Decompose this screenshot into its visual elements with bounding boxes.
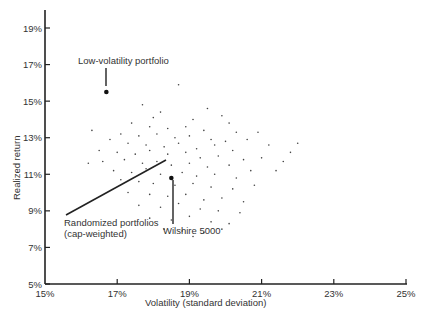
portfolio-point bbox=[217, 155, 219, 157]
portfolio-point bbox=[185, 126, 187, 128]
portfolio-point bbox=[149, 194, 151, 196]
portfolio-point bbox=[196, 148, 198, 150]
randomized-sublabel: (cap-weighted) bbox=[64, 228, 127, 239]
y-tick-label: 17% bbox=[23, 59, 43, 70]
portfolio-point bbox=[109, 139, 111, 141]
randomized-label: Randomized portfolios bbox=[64, 217, 159, 228]
portfolio-point bbox=[171, 219, 173, 221]
portfolio-point bbox=[167, 128, 169, 130]
portfolio-point bbox=[185, 194, 187, 196]
portfolio-point bbox=[98, 150, 100, 152]
portfolio-point bbox=[145, 168, 147, 170]
y-tick-label: 19% bbox=[23, 23, 43, 34]
portfolio-point bbox=[297, 142, 299, 144]
y-tick-label: 13% bbox=[23, 132, 43, 143]
portfolio-point bbox=[120, 179, 122, 181]
x-tick-label: 17% bbox=[108, 288, 128, 299]
y-tick-label: 7% bbox=[28, 242, 42, 253]
portfolio-point bbox=[228, 164, 230, 166]
portfolio-point bbox=[199, 208, 201, 210]
portfolio-point bbox=[185, 152, 187, 154]
portfolio-point bbox=[138, 205, 140, 207]
portfolio-point bbox=[181, 172, 183, 174]
portfolio-point bbox=[178, 203, 180, 205]
portfolio-point bbox=[145, 144, 147, 146]
portfolio-point bbox=[221, 197, 223, 199]
y-tick-label: 11% bbox=[24, 169, 43, 180]
portfolio-point bbox=[127, 192, 129, 194]
portfolio-point bbox=[210, 186, 212, 188]
portfolio-point bbox=[214, 144, 216, 146]
portfolio-point bbox=[210, 221, 212, 223]
portfolio-point bbox=[243, 201, 245, 203]
portfolio-point bbox=[160, 111, 162, 113]
portfolio-point bbox=[236, 131, 238, 133]
portfolio-point bbox=[134, 153, 136, 155]
axes: 5%7%9%11%13%15%17%19% 15%17%19%21%23%25% bbox=[23, 10, 416, 299]
portfolio-point bbox=[160, 173, 162, 175]
portfolio-point bbox=[199, 157, 201, 159]
portfolio-point bbox=[124, 159, 126, 161]
portfolio-point bbox=[149, 150, 151, 152]
portfolio-point bbox=[282, 161, 284, 163]
portfolio-point bbox=[149, 126, 151, 128]
portfolio-point bbox=[207, 108, 209, 110]
highlight-point bbox=[104, 90, 109, 95]
portfolio-point bbox=[232, 150, 234, 152]
scatter-points bbox=[88, 84, 299, 237]
x-ticks: 15%17%19%21%23%25% bbox=[35, 279, 416, 299]
annotations: Low-volatility portfolio Randomized port… bbox=[64, 55, 221, 239]
portfolio-point bbox=[203, 130, 205, 132]
y-ticks: 5%7%9%11%13%15%17%19% bbox=[23, 23, 50, 290]
portfolio-point bbox=[254, 184, 256, 186]
portfolio-point bbox=[178, 84, 180, 86]
portfolio-point bbox=[196, 175, 198, 177]
portfolio-point bbox=[153, 183, 155, 185]
portfolio-point bbox=[178, 142, 180, 144]
portfolio-point bbox=[120, 133, 122, 135]
portfolio-point bbox=[243, 159, 245, 161]
portfolio-point bbox=[228, 122, 230, 124]
portfolio-point bbox=[192, 119, 194, 121]
portfolio-point bbox=[221, 228, 223, 230]
portfolio-point bbox=[189, 216, 191, 218]
portfolio-point bbox=[102, 161, 104, 163]
portfolio-point bbox=[138, 181, 140, 183]
portfolio-point bbox=[275, 170, 277, 172]
portfolio-point bbox=[174, 184, 176, 186]
portfolio-point bbox=[153, 117, 155, 119]
x-tick-label: 25% bbox=[396, 288, 416, 299]
portfolio-point bbox=[290, 152, 292, 154]
portfolio-point bbox=[127, 142, 129, 144]
portfolio-point bbox=[142, 104, 144, 106]
scatter-chart: 5%7%9%11%13%15%17%19% 15%17%19%21%23%25%… bbox=[0, 0, 427, 317]
portfolio-point bbox=[250, 170, 252, 172]
portfolio-point bbox=[236, 177, 238, 179]
portfolio-point bbox=[91, 130, 93, 132]
portfolio-point bbox=[261, 157, 263, 159]
portfolio-point bbox=[131, 122, 133, 124]
portfolio-point bbox=[88, 163, 90, 165]
y-axis-label: Realized return bbox=[11, 136, 22, 200]
y-tick-label: 9% bbox=[28, 205, 42, 216]
portfolio-point bbox=[217, 210, 219, 212]
portfolio-point bbox=[268, 144, 270, 146]
portfolio-point bbox=[189, 163, 191, 165]
portfolio-point bbox=[171, 164, 173, 166]
portfolio-point bbox=[228, 223, 230, 225]
portfolio-point bbox=[138, 135, 140, 137]
portfolio-point bbox=[167, 153, 169, 155]
portfolio-point bbox=[232, 188, 234, 190]
portfolio-point bbox=[113, 170, 115, 172]
portfolio-point bbox=[246, 139, 248, 141]
portfolio-point bbox=[142, 163, 144, 165]
portfolio-point bbox=[257, 131, 259, 133]
highlight-point bbox=[169, 176, 174, 181]
portfolio-point bbox=[214, 173, 216, 175]
x-tick-label: 23% bbox=[324, 288, 344, 299]
y-tick-label: 15% bbox=[23, 96, 43, 107]
portfolio-point bbox=[131, 172, 133, 174]
portfolio-point bbox=[167, 195, 169, 197]
portfolio-point bbox=[189, 135, 191, 137]
low-vol-label: Low-volatility portfolio bbox=[78, 55, 169, 66]
